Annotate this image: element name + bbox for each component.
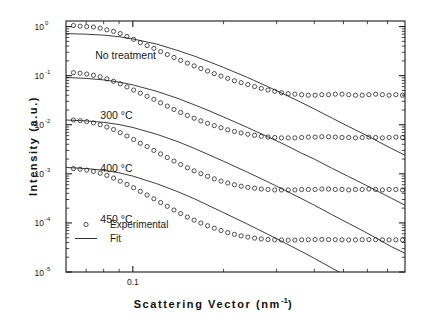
x-tick-label: 0.1 (127, 277, 139, 287)
y-tick-exponent: -2 (45, 118, 51, 124)
legend-label-fit: Fit (110, 233, 121, 244)
data-point (313, 237, 317, 241)
data-point (145, 44, 149, 48)
data-point (152, 197, 156, 201)
data-point (273, 188, 277, 192)
data-point (266, 88, 270, 92)
data-point (333, 187, 337, 191)
data-point (360, 238, 364, 242)
data-point (293, 188, 297, 192)
data-point (313, 187, 317, 191)
data-point (239, 234, 243, 238)
data-point (232, 183, 236, 187)
data-point (320, 237, 324, 241)
data-point (353, 238, 357, 242)
data-point (138, 91, 142, 95)
data-point (125, 182, 129, 186)
data-point (138, 141, 142, 145)
data-point (246, 132, 250, 136)
curve-label: 400 °C (100, 162, 133, 174)
data-point (320, 187, 324, 191)
data-point (158, 152, 162, 156)
data-point (118, 31, 122, 35)
data-point (360, 135, 364, 139)
data-point (306, 187, 310, 191)
data-point (232, 232, 236, 236)
data-point (192, 169, 196, 173)
data-point (226, 76, 230, 80)
data-point (78, 71, 82, 75)
data-point (252, 84, 256, 88)
data-point (165, 52, 169, 56)
data-point (145, 144, 149, 148)
data-point (394, 187, 398, 191)
data-point (252, 236, 256, 240)
data-point (145, 94, 149, 98)
data-point (205, 69, 209, 73)
data-point (158, 101, 162, 105)
data-point (320, 135, 324, 139)
data-point (85, 72, 89, 76)
data-point (232, 129, 236, 133)
data-point (300, 93, 304, 97)
data-point (219, 126, 223, 130)
data-point (360, 187, 364, 191)
data-point (78, 24, 82, 28)
data-point (158, 49, 162, 53)
data-point (394, 135, 398, 139)
figure-root: 10010-110-210-310-410-50.1No treatment30… (0, 0, 427, 328)
data-point (226, 128, 230, 132)
data-point (219, 179, 223, 183)
data-point (205, 174, 209, 178)
data-point (387, 93, 391, 97)
data-point (185, 113, 189, 117)
data-point (165, 104, 169, 108)
data-point (125, 134, 129, 138)
data-point (165, 155, 169, 159)
data-point (286, 238, 290, 242)
data-point (367, 93, 371, 97)
data-point (380, 188, 384, 192)
data-point (252, 133, 256, 137)
data-point (239, 81, 243, 85)
data-point (259, 187, 263, 191)
data-point (152, 148, 156, 152)
data-point (326, 93, 330, 97)
x-axis-title: Scattering Vector (nm-1) (0, 296, 427, 310)
data-point (340, 92, 344, 96)
data-point (347, 188, 351, 192)
data-point (367, 237, 371, 241)
data-point (105, 28, 109, 32)
y-tick-exponent: -3 (45, 167, 51, 173)
data-point (326, 237, 330, 241)
data-point (145, 193, 149, 197)
data-point (158, 200, 162, 204)
data-point (380, 136, 384, 140)
data-point (353, 136, 357, 140)
y-tick-exponent: -5 (45, 266, 51, 272)
data-point (212, 124, 216, 128)
data-point (353, 187, 357, 191)
data-point (91, 25, 95, 29)
data-point (172, 107, 176, 111)
data-point (71, 166, 75, 170)
data-point (347, 238, 351, 242)
data-point (333, 238, 337, 242)
data-point (179, 58, 183, 62)
data-point (239, 184, 243, 188)
data-point (199, 66, 203, 70)
data-point (226, 231, 230, 235)
data-point (105, 173, 109, 177)
data-point (212, 177, 216, 181)
data-point (199, 221, 203, 225)
data-point (212, 226, 216, 230)
data-point (246, 82, 250, 86)
y-tick-label: 10 (35, 268, 45, 278)
data-point (340, 187, 344, 191)
data-point (219, 74, 223, 78)
data-point (333, 92, 337, 96)
data-point (179, 162, 183, 166)
data-point (71, 71, 75, 75)
data-point (172, 159, 176, 163)
data-point (306, 93, 310, 97)
